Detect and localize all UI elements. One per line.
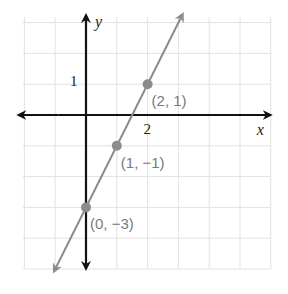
y-axis-label: y	[93, 13, 103, 31]
y-tick-label: 1	[70, 73, 78, 89]
data-point	[112, 141, 122, 151]
x-axis-label: x	[256, 121, 264, 138]
x-tick-label: 2	[144, 121, 152, 137]
data-point-label: (1, −1)	[121, 154, 165, 171]
data-point-label: (2, 1)	[152, 92, 187, 109]
data-point-label: (0, −3)	[90, 215, 134, 232]
coordinate-graph: xy21(2, 1)(1, −1)(0, −3)	[0, 0, 288, 294]
data-point	[143, 79, 153, 89]
data-point	[81, 202, 91, 212]
axes	[21, 18, 267, 266]
grid	[23, 17, 271, 269]
